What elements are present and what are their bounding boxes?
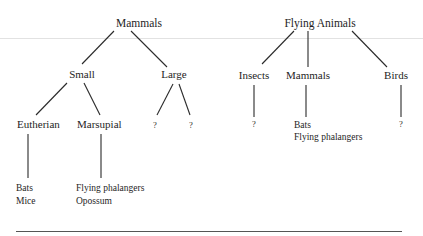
member-insects-unknown: ? [252, 119, 256, 129]
edge-mammals-small [82, 31, 114, 64]
mammals-size-tree: Mammals Small Large Eutherian Marsupial … [16, 17, 193, 206]
member-flying-phalangers: Flying phalangers [76, 183, 145, 193]
node-insects: Insects [239, 69, 270, 81]
edge-small-eutherian [36, 83, 67, 115]
edge-large-unknown-2 [179, 84, 190, 115]
edge-flying-insects [262, 31, 294, 64]
node-flying-mammals: Mammals [286, 69, 330, 81]
member-flying-bats: Bats [294, 120, 311, 130]
node-small: Small [69, 68, 95, 80]
node-eutherian: Eutherian [17, 118, 60, 130]
member-mice: Mice [16, 196, 36, 206]
hierarchy-diagram: Mammals Small Large Eutherian Marsupial … [0, 0, 423, 236]
edge-small-marsupial [84, 83, 100, 115]
node-birds: Birds [384, 69, 408, 81]
diagram-canvas: Mammals Small Large Eutherian Marsupial … [0, 0, 423, 236]
member-flying-phalangers-right: Flying phalangers [294, 132, 363, 142]
node-large-unknown-1: ? [153, 120, 157, 130]
node-marsupial: Marsupial [77, 118, 122, 130]
member-birds-unknown: ? [399, 119, 403, 129]
node-mammals-root: Mammals [116, 17, 163, 29]
node-large-unknown-2: ? [189, 120, 193, 130]
node-large: Large [161, 68, 187, 80]
member-opossum: Opossum [76, 196, 113, 206]
member-bats: Bats [16, 183, 33, 193]
edge-mammals-large [131, 31, 167, 67]
edge-large-unknown-1 [157, 84, 173, 115]
node-flying-animals-root: Flying Animals [284, 17, 356, 30]
flying-animals-tree: Flying Animals Insects Mammals Birds ? B… [239, 17, 408, 142]
edge-flying-birds [352, 31, 387, 67]
